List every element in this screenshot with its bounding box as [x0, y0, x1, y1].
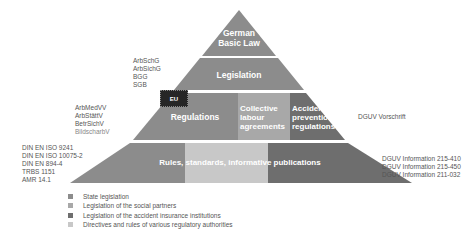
dguv-vorschrift-label: DGUV Vorschrift	[358, 113, 406, 121]
basic-law-line1: German	[209, 28, 269, 38]
accident-line3: regulations	[292, 122, 342, 131]
collective-line1: Collective	[240, 104, 290, 113]
basic-law-line2: Basic Law	[209, 38, 269, 48]
regulation-item: ArbMedVV	[75, 104, 110, 112]
rule-item: TRBS 1151	[22, 168, 83, 176]
legend: State legislation Legislation of the soc…	[68, 192, 233, 229]
publication-item: DGUV Information 211-032	[382, 171, 461, 179]
accident-prevention-label: Accident prevention regulations	[292, 104, 342, 131]
regulations-list: ArbMedVV ArbStättV BetrSichV BildscharbV	[75, 104, 110, 136]
collective-line2: labour	[240, 113, 290, 122]
legend-swatch-icon	[68, 213, 73, 218]
rules-list: DIN EN ISO 9241 DIN EN ISO 10075-2 DIN E…	[22, 144, 83, 184]
collective-line3: agreements	[240, 122, 290, 131]
regulation-item: ArbStättV	[75, 112, 110, 120]
act-item: ArbSichG	[133, 65, 161, 73]
legend-label: Legislation of the accident insurance in…	[83, 211, 221, 220]
legend-item: State legislation	[68, 192, 233, 201]
accident-line1: Accident	[292, 104, 342, 113]
legend-label: State legislation	[83, 192, 129, 201]
act-item: BGG	[133, 73, 161, 81]
accident-line2: prevention	[292, 113, 342, 122]
eu-badge: EU	[160, 90, 188, 107]
rule-item: AMR 14.1	[22, 176, 83, 184]
regulation-item: BetrSichV	[75, 120, 110, 128]
publication-item: DGUV Information 215-450	[382, 163, 461, 171]
legend-label: Legislation of the social partners	[83, 201, 176, 210]
rule-item: DIN EN ISO 10075-2	[22, 152, 83, 160]
legislation-acts-list: ArbSchG ArbSichG BGG SGB	[133, 57, 161, 89]
legend-item: Legislation of the accident insurance in…	[68, 211, 233, 220]
legend-swatch-icon	[68, 222, 73, 227]
basic-law-label: German Basic Law	[209, 28, 269, 48]
publication-item: DGUV Information 215-410	[382, 155, 461, 163]
legend-item: Legislation of the social partners	[68, 201, 233, 210]
regulation-item: BildscharbV	[75, 128, 110, 136]
legend-item: Directives and rules of various regulato…	[68, 220, 233, 229]
act-item: SGB	[133, 81, 161, 89]
legend-swatch-icon	[68, 194, 73, 199]
legislation-label: Legislation	[199, 70, 279, 80]
rules-label: Rules, standards, informative publicatio…	[120, 158, 360, 168]
legend-label: Directives and rules of various regulato…	[83, 220, 233, 229]
rule-item: DIN EN 894-4	[22, 160, 83, 168]
act-item: ArbSchG	[133, 57, 161, 65]
legend-swatch-icon	[68, 203, 73, 208]
publications-list: DGUV Information 215-410 DGUV Informatio…	[382, 155, 461, 179]
collective-agreements-label: Collective labour agreements	[240, 104, 290, 131]
rule-item: DIN EN ISO 9241	[22, 144, 83, 152]
regulations-label: Regulations	[160, 112, 230, 122]
